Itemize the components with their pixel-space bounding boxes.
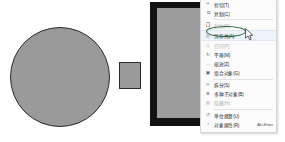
save-as-icon: ⎙ <box>202 34 214 39</box>
context-menu-item-label: 组合对象(G) <box>214 70 276 76</box>
context-menu-item-3[interactable]: ⎙另存为(A) <box>201 30 276 41</box>
panel-inner-fill <box>157 8 201 118</box>
context-menu-separator <box>213 19 273 20</box>
context-menu-item-label: 复制(C) <box>214 10 276 16</box>
context-menu-item-4: ⎙打印(P) <box>201 41 276 50</box>
layer-icon: ▣ <box>202 71 214 76</box>
context-menu-item-12[interactable]: ▫对象属性(R)Alt+Enter <box>201 120 276 129</box>
cut-icon: ✂ <box>202 2 214 7</box>
context-menu-item-0[interactable]: ✂剪切(T) <box>201 0 276 9</box>
rotate-icon: ↻ <box>202 53 214 58</box>
context-menu-item-label: 多种子对象(B) <box>214 91 276 97</box>
context-menu-separator <box>213 109 273 110</box>
properties-icon: ▫ <box>202 122 214 127</box>
context-menu-list: ✂剪切(T)⧉复制(C)📋粘贴(P)⎙另存为(A)⎙打印(P)↻平移(M)↔缩放… <box>201 0 276 129</box>
context-menu-item-label: 粘贴(P) <box>214 23 276 29</box>
context-menu-item-8[interactable]: ✂拆分(S) <box>201 81 276 90</box>
copy-icon: ⧉ <box>202 11 214 16</box>
context-menu-separator <box>213 79 273 80</box>
context-menu-item-label: 单位换算(U) <box>214 112 276 118</box>
context-menu-item-label: 另存为(A) <box>214 33 276 39</box>
align-icon: ≣ <box>202 92 214 97</box>
context-menu-item-6[interactable]: ↔缩放(Z) <box>201 60 276 69</box>
context-menu-item-11[interactable]: ↺单位换算(U) <box>201 111 276 120</box>
split-icon: ✂ <box>202 83 214 88</box>
context-menu-item-5[interactable]: ↻平移(M) <box>201 50 276 59</box>
context-menu-item-10: ▦隐藏(H) <box>201 99 276 108</box>
context-menu-item-7[interactable]: ▣组合对象(G) <box>201 69 276 78</box>
context-menu-item-label: 对象属性(R) <box>214 122 257 128</box>
screenshot-root: ✂剪切(T)⧉复制(C)📋粘贴(P)⎙另存为(A)⎙打印(P)↻平移(M)↔缩放… <box>0 0 285 142</box>
context-menu-item-label: 缩放(Z) <box>214 61 276 67</box>
context-menu-item-accelerator: Alt+Enter <box>257 122 276 127</box>
context-menu-item-label: 隐藏(H) <box>214 100 276 106</box>
context-menu-item-1[interactable]: ⧉复制(C) <box>201 9 276 18</box>
small-rectangle-shape[interactable] <box>119 62 141 89</box>
group-icon: ▦ <box>202 101 214 106</box>
refresh-icon: ↺ <box>202 113 214 118</box>
paste-icon: 📋 <box>202 23 214 28</box>
context-menu-item-label: 剪切(T) <box>214 1 276 7</box>
resize-icon: ↔ <box>202 62 214 67</box>
context-menu-item-label: 拆分(S) <box>214 82 276 88</box>
context-menu-item-9[interactable]: ≣多种子对象(B) <box>201 90 276 99</box>
context-menu-item-2: 📋粘贴(P) <box>201 21 276 30</box>
framed-image-panel[interactable] <box>150 2 203 126</box>
context-menu[interactable]: ✂剪切(T)⧉复制(C)📋粘贴(P)⎙另存为(A)⎙打印(P)↻平移(M)↔缩放… <box>200 0 277 133</box>
large-circle-shape[interactable] <box>10 27 110 127</box>
context-menu-item-label: 打印(P) <box>214 43 276 49</box>
print-icon: ⎙ <box>202 44 214 49</box>
context-menu-item-label: 平移(M) <box>214 52 276 58</box>
